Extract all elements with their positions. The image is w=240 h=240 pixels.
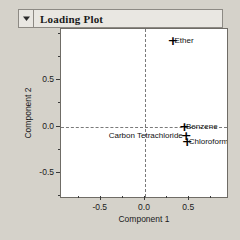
y-axis-tick [58, 149, 60, 150]
y-axis-tick-label: -0.5 [39, 167, 54, 177]
x-axis-title: Component 1 [60, 214, 228, 224]
y-axis-tick [58, 33, 60, 34]
x-axis-tick-label: -0.5 [92, 202, 107, 212]
x-axis-tick [144, 196, 145, 200]
y-axis-tick-label: 0.5 [42, 74, 54, 84]
plot-area: +Ether+Benzene+Carbon Tetrachloride+Chlo… [61, 29, 227, 197]
y-axis-tick [58, 195, 60, 196]
plot-frame: +Ether+Benzene+Carbon Tetrachloride+Chlo… [60, 28, 228, 198]
zero-line-vertical [145, 29, 146, 197]
y-axis-tick [56, 126, 60, 127]
x-axis-tick [122, 196, 123, 198]
y-axis-tick-label: 0.0 [42, 121, 54, 131]
x-axis-tick [166, 196, 167, 198]
data-point-label: Chloroform [189, 137, 227, 146]
loading-plot-window: Loading Plot +Ether+Benzene+Carbon Tetra… [0, 0, 240, 240]
x-axis-tick [100, 196, 101, 200]
x-axis-tick-label: 0.5 [182, 202, 194, 212]
y-axis-tick [58, 56, 60, 57]
data-point-label: Carbon Tetrachloride [109, 131, 183, 140]
x-axis-tick-label: 0.0 [138, 202, 150, 212]
page-title: Loading Plot [34, 13, 103, 25]
chart-panel: +Ether+Benzene+Carbon Tetrachloride+Chlo… [28, 26, 234, 232]
y-axis-tick [56, 172, 60, 173]
x-axis-tick [188, 196, 189, 200]
x-axis-tick [78, 196, 79, 198]
y-axis-tick [56, 79, 60, 80]
x-axis-tick [210, 196, 211, 198]
y-axis-title: Component 2 [23, 87, 33, 138]
y-axis-tick [58, 102, 60, 103]
data-point-label: Ether [175, 36, 194, 45]
